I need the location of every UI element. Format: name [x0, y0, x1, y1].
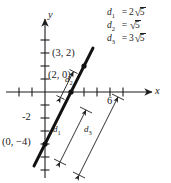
legend-d2-equals: =: [120, 20, 129, 30]
point-marker-0-neg4: [42, 141, 47, 146]
x-axis-label: x: [155, 86, 160, 97]
distance-label-d1: d1: [53, 125, 61, 136]
legend-row-d1: d1 = 2√5: [107, 7, 146, 20]
legend-d1-name: d1: [107, 7, 120, 19]
point-marker-3-2: [81, 63, 86, 68]
bracket-d3: [73, 94, 124, 178]
point-label-3-2: (3, 2): [52, 48, 75, 59]
point-marker-2-0: [68, 89, 73, 94]
distance-label-d3: d3: [84, 125, 92, 136]
legend-d1-value: 2√5: [129, 7, 146, 18]
distance-label-d2-sub: 2: [70, 79, 73, 86]
legend-d2-value: √5: [129, 20, 141, 31]
legend-d2-name: d2: [107, 20, 120, 32]
point-label-0-neg4: (0, −4): [2, 137, 31, 148]
legend-d3-equals: =: [120, 33, 129, 43]
legend-row-d3: d3 = 3√5: [107, 33, 146, 46]
x-axis: [6, 88, 152, 97]
legend-d3-name: d3: [107, 33, 120, 45]
distance-label-d2: d2: [65, 75, 73, 86]
legend-d3-radicand: 5: [140, 33, 146, 44]
distance-legend: d1 = 2√5 d2 = √5 d3 = 3√5: [107, 7, 146, 46]
distance-label-d1-sub: 1: [58, 129, 61, 136]
y-tick-label-neg2: -2: [22, 112, 31, 123]
legend-d3-value: 3√5: [129, 33, 146, 44]
x-tick-label-6: 6: [107, 96, 112, 107]
y-axis-label: y: [48, 10, 53, 21]
coordinate-plane-figure: x y 6 -2 (3, 2) (2, 0) (0, −4) d2 d1 d3 …: [0, 0, 171, 183]
legend-d1-radicand: 5: [140, 7, 146, 18]
legend-d1-equals: =: [120, 7, 129, 17]
distance-label-d3-sub: 3: [89, 129, 92, 136]
y-axis: [41, 19, 50, 178]
legend-d2-radicand: 5: [135, 20, 141, 31]
